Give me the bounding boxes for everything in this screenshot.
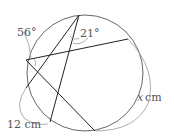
label-12cm: 12 cm (7, 118, 42, 131)
chord-top-to-bottom-left (50, 15, 79, 122)
angle-mark-left (34, 59, 36, 66)
chord-left-to-right (26, 39, 128, 60)
label-21-degrees: 21° (80, 27, 100, 40)
diagram-canvas: 56° 21° 12 cm x cm (0, 0, 174, 140)
angle-mark-top (70, 36, 79, 39)
label-x-variable: x (137, 91, 144, 104)
geometry-diagram: 56° 21° 12 cm x cm (0, 0, 174, 140)
label-56-degrees: 56° (17, 26, 37, 39)
label-x-unit: cm (145, 91, 162, 104)
